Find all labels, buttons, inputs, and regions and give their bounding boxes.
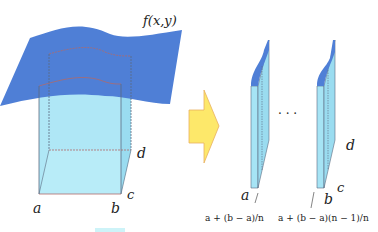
left-solid <box>0 26 182 194</box>
stray-mark <box>95 228 125 232</box>
label-b: b <box>111 200 120 216</box>
right-arrow-icon <box>189 90 219 163</box>
ellipsis: . . . <box>278 103 297 117</box>
slice-last <box>317 40 335 188</box>
surface-f <box>0 26 182 106</box>
label-d-right: d <box>346 137 355 153</box>
riemann-slicing-diagram: f(x,y) d c a b . . . d c a b a + (b − a)… <box>0 0 378 232</box>
label-a-right: a <box>241 187 249 203</box>
function-label: f(x,y) <box>142 13 177 28</box>
annotation-last: a + (b − a)(n − 1)/n <box>278 213 369 223</box>
label-d: d <box>137 145 146 161</box>
label-c-right: c <box>337 180 345 195</box>
pointer-first <box>255 193 258 203</box>
label-b-right: b <box>324 191 333 207</box>
annotation-first: a + (b − a)/n <box>205 213 264 223</box>
slice-first <box>251 40 269 188</box>
pointer-last <box>311 192 314 208</box>
label-a: a <box>33 200 41 216</box>
label-c: c <box>127 187 135 202</box>
